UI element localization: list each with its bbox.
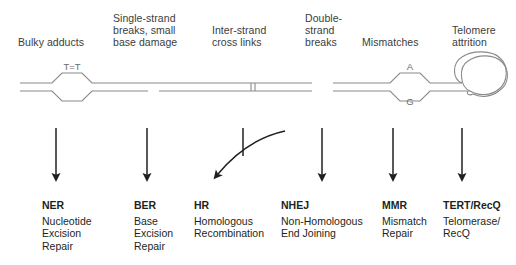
telomere-loop-outer [455,52,507,95]
pathway-tert: TERT/RecQ Telomerase/ RecQ [443,199,516,240]
thymine-dimer-label: T=T [63,61,80,72]
mismatch-base-g: G [406,96,413,107]
dna-bottom-strand-right [333,91,470,101]
pathway-ner-abbr: NER [42,199,127,212]
mismatch-base-a: A [407,61,414,72]
pathway-ner: NER Nucleotide Excision Repair [42,199,127,252]
pathway-nhej-abbr: NHEJ [281,199,386,212]
arrow-hr-curved [218,131,285,174]
pathway-nhej-full: Non-Homologous End Joining [281,215,386,240]
dna-top-strand-right [333,73,462,83]
pathway-arrows [56,128,462,175]
pathway-nhej: NHEJ Non-Homologous End Joining [281,199,386,240]
pathway-tert-abbr: TERT/RecQ [443,199,516,212]
telomere-loop-inner [461,56,507,96]
dna-duplex [20,52,507,101]
pathway-ner-full: Nucleotide Excision Repair [42,215,127,253]
dna-bottom-strand-left-a [20,91,148,101]
dna-damage-repair-figure: Bulky adducts Single-strand breaks, smal… [0,0,516,265]
dna-top-strand-left [20,73,312,83]
pathway-tert-full: Telomerase/ RecQ [443,215,516,240]
